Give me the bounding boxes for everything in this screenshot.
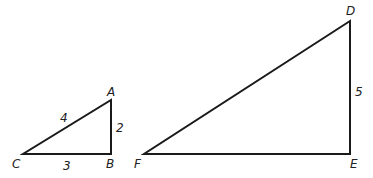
side-ca-length: 4 [60, 111, 68, 125]
triangle-def-shape [144, 21, 350, 154]
triangle-abc-shape [23, 100, 111, 154]
triangle-def: D E F 5 [134, 4, 363, 171]
vertex-c-label: C [12, 157, 21, 171]
vertex-f-label: F [134, 157, 142, 171]
vertex-a-label: A [106, 85, 115, 99]
side-de-length: 5 [355, 85, 363, 99]
vertex-b-label: B [106, 157, 114, 171]
vertex-d-label: D [346, 4, 355, 18]
vertex-e-label: E [350, 157, 358, 171]
side-cb-length: 3 [63, 159, 71, 173]
triangle-abc: A B C 4 2 3 [12, 85, 124, 173]
side-ab-length: 2 [116, 121, 124, 135]
triangles-diagram: A B C 4 2 3 D E F 5 [0, 0, 373, 178]
